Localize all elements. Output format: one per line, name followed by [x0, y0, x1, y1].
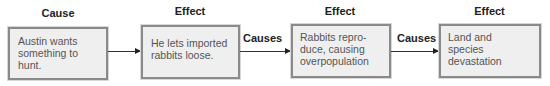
node-2-heading: Effect	[140, 5, 240, 17]
arrow-3	[391, 51, 438, 52]
node-4-heading: Effect	[438, 5, 541, 17]
arrow-1	[108, 51, 140, 52]
node-1-heading: Cause	[8, 7, 108, 19]
node-1-text: Austin wants something to hunt.	[18, 35, 90, 71]
node-2-box: He lets imported rabbits loose.	[141, 25, 240, 79]
node-3-heading: Effect	[290, 5, 390, 17]
node-4-text: Land and species devastation	[448, 31, 506, 67]
arrow-2-label: Causes	[243, 32, 282, 44]
node-3-box: Rabbits repro-duce, causing overpopulati…	[291, 24, 391, 78]
arrow-3-label: Causes	[397, 32, 436, 44]
node-2-text: He lets imported rabbits loose.	[151, 37, 231, 61]
node-4-box: Land and species devastation	[439, 24, 541, 78]
node-1-box: Austin wants something to hunt.	[8, 27, 108, 80]
arrow-2	[240, 51, 290, 52]
node-3-text: Rabbits repro-duce, causing overpopulati…	[300, 31, 368, 67]
